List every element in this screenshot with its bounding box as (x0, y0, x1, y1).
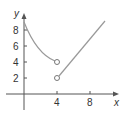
x-tick-label-8: 8 (87, 97, 93, 108)
chart: 4 8 x 2 4 6 8 y (0, 0, 125, 113)
y-axis-label: y (13, 8, 20, 19)
y-tick-label-4: 4 (13, 57, 19, 68)
y-tick-label-6: 6 (13, 41, 19, 52)
y-tick-label-2: 2 (13, 73, 19, 84)
line-piece-2 (59, 21, 105, 76)
x-axis-label: x (113, 97, 120, 108)
open-point-4-4 (55, 60, 60, 65)
curve-piece-1 (24, 22, 55, 61)
y-tick-label-8: 8 (13, 25, 19, 36)
open-point-4-2 (55, 76, 60, 81)
x-axis-arrow-icon (113, 92, 119, 97)
y-axis-arrow-icon (22, 13, 27, 19)
x-tick-label-4: 4 (54, 97, 60, 108)
